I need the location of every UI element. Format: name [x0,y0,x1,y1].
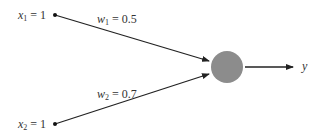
weight-value-1: = 0.5 [112,12,137,26]
neuron-node [211,51,243,83]
input-label-1: x1 = 1 [18,9,46,23]
weight-sub-1: 1 [105,18,109,27]
weight-var-2: w [97,87,105,101]
input-label-2: x2 = 1 [18,118,46,132]
input-node-2 [53,122,57,126]
input-node-1 [53,13,57,17]
weight-sub-2: 2 [105,93,109,102]
weight-label-1: w1 = 0.5 [97,13,137,27]
output-label: y [302,60,307,72]
perceptron-diagram [0,0,327,135]
weight-value-2: = 0.7 [112,87,137,101]
output-var: y [302,59,307,73]
weight-var-1: w [97,12,105,26]
weight-label-2: w2 = 0.7 [97,88,137,102]
input-sub-1: 1 [23,14,27,23]
input-value-1: = 1 [30,8,46,22]
input-value-2: = 1 [30,117,46,131]
input-sub-2: 2 [23,123,27,132]
